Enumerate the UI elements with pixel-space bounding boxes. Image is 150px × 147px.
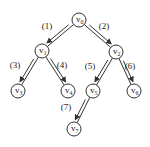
edge-line bbox=[97, 58, 113, 85]
node-v1: v1 bbox=[35, 44, 49, 58]
node-v2: v2 bbox=[109, 45, 123, 59]
edge-label: (7) bbox=[61, 102, 72, 112]
edge-label: (5) bbox=[85, 61, 96, 71]
edge-label: (4) bbox=[57, 60, 68, 70]
node-v4: v4 bbox=[61, 84, 75, 98]
edge-labels-layer: (1)(2)(3)(4)(5)(6)(7) bbox=[10, 21, 136, 112]
edge-label: (2) bbox=[99, 21, 110, 31]
edge-label: (3) bbox=[10, 60, 21, 70]
node-v3: v3 bbox=[11, 84, 25, 98]
edge-line bbox=[22, 57, 39, 85]
traversal-arrow bbox=[95, 60, 108, 82]
edge-v1-v3 bbox=[20, 57, 38, 85]
tree-diagram: (1)(2)(3)(4)(5)(6)(7) v0v1v2v3v4v5v6v7 bbox=[0, 0, 150, 147]
edge-label: (6) bbox=[125, 61, 136, 71]
edge-v5-v7 bbox=[75, 97, 90, 122]
node-v7: v7 bbox=[67, 122, 81, 136]
traversal-arrow bbox=[20, 59, 34, 82]
node-v5: v5 bbox=[86, 84, 100, 98]
edge-label: (1) bbox=[42, 21, 53, 31]
node-v0: v0 bbox=[72, 13, 86, 27]
edge-line bbox=[77, 97, 90, 122]
edges-layer bbox=[20, 24, 133, 122]
node-v6: v6 bbox=[127, 84, 141, 98]
edge-v2-v5 bbox=[95, 58, 112, 85]
